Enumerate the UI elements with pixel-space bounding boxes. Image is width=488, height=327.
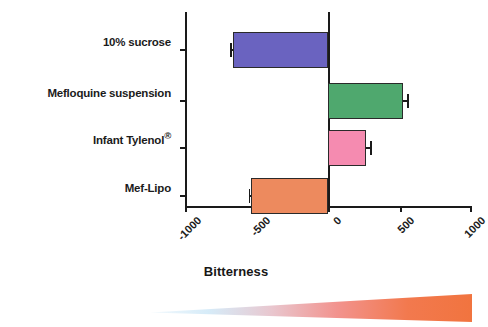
registered-trademark-icon: ®: [164, 130, 171, 141]
y-axis-line: [185, 12, 187, 208]
bar-sucrose: [233, 32, 328, 68]
x-axis-title: Bitterness: [0, 264, 472, 279]
bar-mefloquine-suspension: [328, 83, 403, 119]
y-tick-mefloquine-suspension: [180, 100, 186, 102]
x-tick-neg1000: [185, 206, 187, 212]
y-tick-sucrose: [180, 49, 186, 51]
error-bar-sucrose-cap: [230, 43, 232, 57]
error-bar-infant-tylenol-cap: [370, 141, 372, 155]
x-tick-500: [400, 206, 402, 212]
error-bar-mef-lipo-cap: [249, 189, 251, 203]
category-label-mefloquine-suspension-text: Mefloquine suspension: [47, 87, 171, 99]
category-label-sucrose-text: 10% sucrose: [103, 36, 171, 48]
x-tick-label-zero: 0: [319, 214, 343, 238]
category-label-infant-tylenol-text: Infant Tylenol: [93, 134, 164, 146]
x-tick-zero: [328, 206, 330, 212]
category-label-mefloquine-suspension: Mefloquine suspension: [0, 83, 178, 99]
x-tick-label-1000: 1000: [454, 214, 488, 248]
bar-infant-tylenol: [328, 130, 366, 166]
category-label-sucrose: 10% sucrose: [0, 32, 178, 48]
x-tick-label-500: 500: [387, 214, 417, 244]
x-tick-label-neg1000: -1000: [168, 214, 203, 249]
x-tick-label-neg500: -500: [241, 214, 272, 245]
bar-mef-lipo: [251, 178, 328, 214]
category-label-infant-tylenol: Infant Tylenol®: [0, 130, 178, 146]
error-bar-mefloquine-suspension-cap: [407, 94, 409, 108]
plot-area: -1000 -500 0 500 1000: [185, 12, 472, 208]
y-tick-infant-tylenol: [180, 147, 186, 149]
category-label-mef-lipo-text: Mef-Lipo: [125, 182, 171, 194]
bitterness-gradient-wedge: [150, 292, 472, 326]
wedge-shape: [150, 294, 472, 322]
category-label-mef-lipo: Mef-Lipo: [0, 178, 178, 194]
x-tick-1000: [470, 206, 472, 212]
y-tick-mef-lipo: [180, 195, 186, 197]
